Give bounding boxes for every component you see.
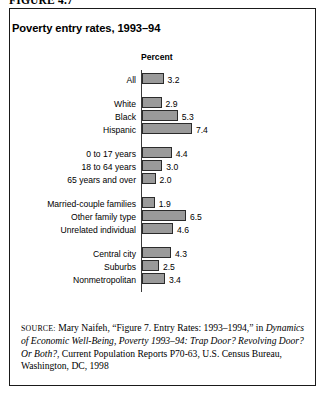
source-text-2: , Current Population Reports P70-63, U.S… bbox=[21, 348, 282, 372]
source-prefix: SOURCE: bbox=[21, 324, 56, 333]
bar bbox=[142, 160, 162, 171]
bar-value-label: 1.9 bbox=[159, 199, 171, 208]
bar-category-label: Nonmetropolitan bbox=[73, 275, 136, 284]
bar-category-label: All bbox=[126, 75, 136, 84]
chart-title: Poverty entry rates, 1993–94 bbox=[12, 22, 160, 34]
bar bbox=[142, 247, 171, 258]
percent-axis-header: Percent bbox=[141, 52, 173, 62]
source-note: SOURCE: Mary Naifeh, “Figure 7. Entry Ra… bbox=[21, 322, 305, 373]
bar bbox=[142, 273, 165, 284]
bar-value-label: 5.3 bbox=[182, 112, 194, 121]
bar-row: Central city4.3 bbox=[0, 247, 305, 260]
bar-value-label: 3.2 bbox=[168, 75, 180, 84]
bar-category-label: Other family type bbox=[71, 212, 136, 221]
bar-row: Black5.3 bbox=[0, 110, 305, 123]
bar-chart-plot-area: Percent All3.2White2.9Black5.3Hispanic7.… bbox=[0, 52, 305, 300]
bar-category-label: Black bbox=[115, 112, 136, 121]
bar-category-label: Central city bbox=[93, 249, 136, 258]
bar-category-label: 18 to 64 years bbox=[82, 162, 136, 171]
bar bbox=[142, 173, 156, 184]
bar-category-label: Suburbs bbox=[104, 262, 136, 271]
bar-value-label: 2.5 bbox=[163, 262, 175, 271]
bar bbox=[142, 73, 164, 84]
bar-value-label: 2.0 bbox=[160, 175, 172, 184]
bar-row: All3.2 bbox=[0, 73, 305, 86]
bar-category-label: 65 years and over bbox=[67, 175, 136, 184]
bar-row: Hispanic7.4 bbox=[0, 123, 305, 136]
bar-category-label: White bbox=[114, 99, 136, 108]
bar-category-label: Hispanic bbox=[103, 125, 136, 134]
bar-category-label: Unrelated individual bbox=[61, 225, 136, 234]
bar bbox=[142, 123, 192, 134]
bar bbox=[142, 147, 172, 158]
bar bbox=[142, 197, 155, 208]
bar-value-label: 4.4 bbox=[176, 149, 188, 158]
bar bbox=[142, 260, 159, 271]
bar-row: Nonmetropolitan3.4 bbox=[0, 273, 305, 286]
bar-value-label: 3.0 bbox=[166, 162, 178, 171]
bar-row: 0 to 17 years4.4 bbox=[0, 147, 305, 160]
bar-value-label: 2.9 bbox=[166, 99, 178, 108]
bar-row: Suburbs2.5 bbox=[0, 260, 305, 273]
figure-number-label: FIGURE 4.7 bbox=[9, 0, 73, 6]
bar-row: 18 to 64 years3.0 bbox=[0, 160, 305, 173]
source-text-1: Mary Naifeh, “Figure 7. Entry Rates: 199… bbox=[56, 322, 266, 333]
bar-row: Other family type6.5 bbox=[0, 210, 305, 223]
bar-row: 65 years and over2.0 bbox=[0, 173, 305, 186]
bar-value-label: 7.4 bbox=[196, 125, 208, 134]
bar bbox=[142, 97, 162, 108]
bar-category-label: 0 to 17 years bbox=[86, 149, 136, 158]
bar bbox=[142, 110, 178, 121]
bar bbox=[142, 210, 186, 221]
bar-row: Unrelated individual4.6 bbox=[0, 223, 305, 236]
bar-value-label: 4.6 bbox=[177, 225, 189, 234]
figure-container: FIGURE 4.7 Poverty entry rates, 1993–94 … bbox=[0, 0, 325, 394]
bar-category-label: Married-couple families bbox=[47, 199, 136, 208]
bar bbox=[142, 223, 173, 234]
bar-value-label: 3.4 bbox=[169, 275, 181, 284]
bar-value-label: 4.3 bbox=[175, 249, 187, 258]
bar-value-label: 6.5 bbox=[190, 212, 202, 221]
bar-row: White2.9 bbox=[0, 97, 305, 110]
bar-row: Married-couple families1.9 bbox=[0, 197, 305, 210]
